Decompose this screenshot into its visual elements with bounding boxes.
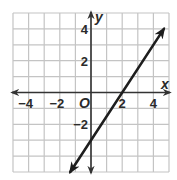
y-axis-label: y (94, 9, 104, 25)
y-tick-label: 2 (81, 54, 88, 69)
origin-label: O (79, 95, 90, 111)
x-axis-label: x (160, 76, 170, 92)
axes (12, 12, 170, 173)
x-tick-label: 4 (150, 96, 158, 111)
coordinate-plane: x y O −4 −2 2 4 4 2 −2 (0, 0, 177, 180)
y-tick-label: 4 (81, 22, 89, 37)
x-tick-label: −4 (18, 96, 34, 111)
x-tick-label: −2 (49, 96, 64, 111)
y-tick-label: −2 (73, 117, 88, 132)
tick-labels: x y O −4 −2 2 4 4 2 −2 (18, 9, 170, 132)
